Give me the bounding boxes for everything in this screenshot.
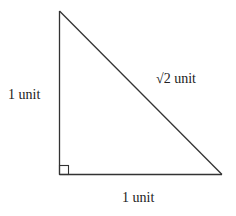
bottom-leg-label: 1 unit [122,191,154,205]
right-angle-marker [60,166,69,175]
triangle-diagram [0,0,236,216]
hypotenuse-line [60,11,223,175]
left-leg-label: 1 unit [8,88,40,102]
hypotenuse-label: √2 unit [156,72,196,86]
